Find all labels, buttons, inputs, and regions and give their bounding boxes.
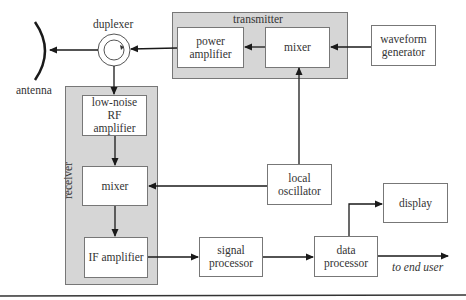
antenna-icon xyxy=(35,22,45,80)
connectors-layer xyxy=(0,0,466,300)
arrow-data-processor-to-display xyxy=(349,204,382,236)
duplexer-circulator-icon xyxy=(98,34,130,66)
bottom-rule xyxy=(0,295,466,296)
arrow-power-amplifier-to-duplexer xyxy=(131,48,177,49)
radar-block-diagram: transmitter receiver poweramplifier mixe… xyxy=(0,0,466,300)
